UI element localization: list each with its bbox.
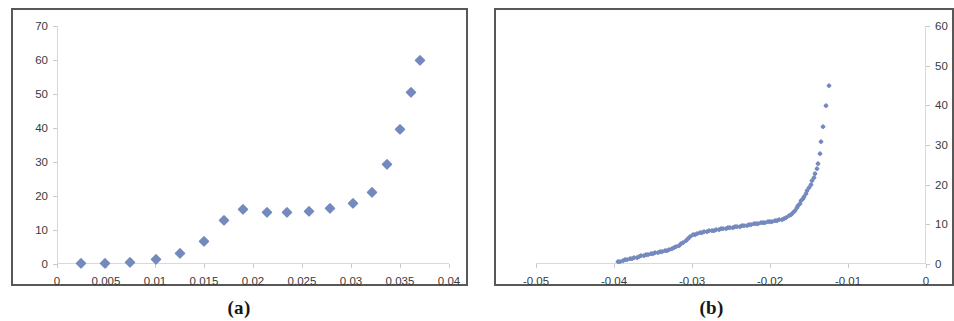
x-tick-label: -0.02 — [757, 275, 783, 287]
y-tick-plot-b — [926, 185, 930, 186]
y-tick-label: 20 — [35, 190, 48, 202]
x-tick-plot-a — [57, 264, 58, 268]
y-tick-label: 10 — [35, 224, 48, 236]
x-tick-label: 0.01 — [144, 275, 166, 287]
y-tick-plot-a — [53, 94, 57, 95]
x-tick-label: 0.04 — [438, 275, 460, 287]
x-tick-plot-a — [204, 264, 205, 268]
data-point-marker — [382, 159, 393, 170]
y-tick-plot-a — [53, 26, 57, 27]
panel-caption-a: (a) — [0, 297, 478, 319]
data-point-marker — [325, 203, 336, 214]
x-tick-plot-b — [692, 264, 693, 268]
figure-panel-a: 00.0050.010.0150.020.0250.030.0350.04010… — [0, 0, 478, 321]
data-point-marker — [366, 186, 377, 197]
figure-panel-b: -0.05-0.04-0.03-0.02-0.0100102030405060 … — [478, 0, 945, 321]
y-tick-label: 30 — [935, 139, 948, 151]
y-tick-label: 40 — [35, 122, 48, 134]
y-tick-plot-a — [53, 196, 57, 197]
data-point-marker — [818, 139, 824, 145]
x-tick-label: 0.02 — [242, 275, 264, 287]
panel-caption-b: (b) — [478, 297, 945, 319]
y-tick-plot-b — [926, 224, 930, 225]
y-tick-label: 20 — [935, 179, 948, 191]
data-point-marker — [414, 54, 425, 65]
y-tick-plot-a — [53, 264, 57, 265]
data-point-marker — [823, 103, 829, 109]
data-point-marker — [261, 207, 272, 218]
y-tick-label: 50 — [35, 88, 48, 100]
y-tick-label: 0 — [935, 258, 941, 270]
x-tick-plot-a — [253, 264, 254, 268]
x-tick-plot-a — [449, 264, 450, 268]
x-tick-label: 0 — [923, 275, 929, 287]
y-tick-plot-b — [926, 26, 930, 27]
y-tick-label: 50 — [935, 60, 948, 72]
x-tick-label: 0.025 — [288, 275, 317, 287]
y-axis-line-a — [57, 26, 58, 264]
data-point-marker — [75, 258, 86, 269]
y-tick-label: 40 — [935, 99, 948, 111]
data-point-marker — [282, 207, 293, 218]
data-point-marker — [817, 151, 823, 157]
plot-area-b: -0.05-0.04-0.03-0.02-0.0100102030405060 — [536, 26, 926, 264]
x-tick-plot-b — [848, 264, 849, 268]
x-tick-label: 0.015 — [190, 275, 219, 287]
data-point-marker — [238, 204, 249, 215]
data-point-marker — [820, 124, 826, 130]
x-tick-plot-a — [351, 264, 352, 268]
data-point-marker — [218, 214, 229, 225]
y-tick-plot-a — [53, 162, 57, 163]
y-tick-plot-a — [53, 128, 57, 129]
x-tick-plot-a — [400, 264, 401, 268]
data-point-marker — [199, 235, 210, 246]
y-tick-label: 60 — [35, 54, 48, 66]
x-tick-label: -0.01 — [835, 275, 861, 287]
y-tick-label: 70 — [35, 20, 48, 32]
x-axis-line-b — [536, 263, 926, 264]
y-tick-plot-a — [53, 60, 57, 61]
plot-area-a: 00.0050.010.0150.020.0250.030.0350.04010… — [57, 26, 449, 264]
x-tick-label: 0.035 — [386, 275, 415, 287]
x-tick-label: 0 — [54, 275, 60, 287]
y-tick-label: 10 — [935, 218, 948, 230]
x-tick-label: 0.005 — [92, 275, 121, 287]
x-tick-plot-a — [302, 264, 303, 268]
x-tick-label: -0.05 — [523, 275, 549, 287]
y-tick-label: 30 — [35, 156, 48, 168]
y-tick-plot-b — [926, 145, 930, 146]
y-tick-plot-b — [926, 66, 930, 67]
data-point-marker — [395, 123, 406, 134]
chart-frame-b: -0.05-0.04-0.03-0.02-0.0100102030405060 — [494, 8, 954, 286]
y-tick-plot-b — [926, 264, 930, 265]
data-point-marker — [348, 197, 359, 208]
x-tick-label: 0.03 — [340, 275, 362, 287]
x-tick-label: -0.03 — [679, 275, 705, 287]
data-point-marker — [100, 258, 111, 269]
x-tick-plot-b — [770, 264, 771, 268]
data-point-marker — [175, 248, 186, 259]
data-point-marker — [304, 205, 315, 216]
data-point-marker — [826, 82, 832, 88]
x-tick-plot-b — [536, 264, 537, 268]
data-point-marker — [124, 257, 135, 268]
data-point-marker — [405, 87, 416, 98]
x-tick-label: -0.04 — [601, 275, 627, 287]
y-tick-label: 60 — [935, 20, 948, 32]
x-tick-plot-b — [614, 264, 615, 268]
y-tick-plot-b — [926, 105, 930, 106]
y-tick-label: 0 — [42, 258, 48, 270]
chart-frame-a: 00.0050.010.0150.020.0250.030.0350.04010… — [11, 8, 468, 286]
y-tick-plot-a — [53, 230, 57, 231]
